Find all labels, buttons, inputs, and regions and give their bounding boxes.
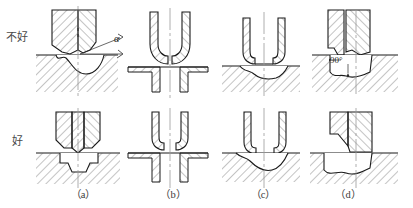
angle-90-annotation: 90° xyxy=(330,55,343,65)
figure-a-good xyxy=(36,108,120,188)
figure-b-bad xyxy=(128,8,208,98)
diagram-canvas: 不好 好 xyxy=(0,0,413,208)
caption-d: （d） xyxy=(318,186,378,201)
caption-a: （a） xyxy=(53,186,113,201)
technical-drawing xyxy=(0,0,413,208)
caption-b: （b） xyxy=(143,186,203,201)
angle-alpha-annotation: α xyxy=(114,33,119,44)
figure-a-bad xyxy=(36,6,123,96)
figure-b-good xyxy=(128,108,208,188)
figure-d-good xyxy=(310,108,398,188)
figure-d-bad xyxy=(312,10,398,96)
figure-c-bad xyxy=(222,12,300,96)
figure-c-good xyxy=(222,108,300,188)
caption-c: （c） xyxy=(233,186,293,201)
